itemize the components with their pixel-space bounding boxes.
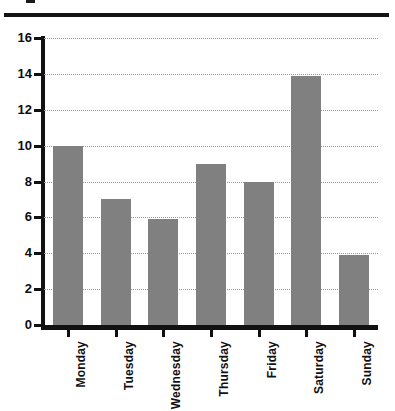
x-axis-category-label: Friday — [265, 341, 279, 378]
x-axis-category-label: Saturday — [312, 341, 326, 394]
bar[interactable] — [339, 255, 369, 325]
y-axis-tick-label: 8 — [2, 175, 32, 188]
x-axis-category-label: Monday — [74, 341, 88, 388]
y-axis-tick — [34, 252, 42, 255]
y-axis-tick — [34, 37, 42, 40]
y-axis-tick — [34, 181, 42, 184]
y-axis-tick — [34, 109, 42, 112]
y-axis-tick — [34, 324, 42, 327]
x-axis-tick — [258, 330, 261, 337]
y-axis-tick-label: 16 — [2, 31, 32, 44]
y-axis-tick — [34, 216, 42, 219]
y-axis-tick-label: 4 — [2, 246, 32, 259]
x-axis-category-label: Thursday — [217, 341, 231, 397]
y-axis-tick-label: 10 — [2, 139, 32, 152]
bar-chart-figure: 0246810121416 MondayTuesdayWednesdayThur… — [0, 0, 395, 411]
y-axis-tick-label: 0 — [2, 318, 32, 331]
x-axis-category-label: Sunday — [360, 341, 374, 386]
x-axis-tick — [353, 330, 356, 337]
y-axis-tick-label: 2 — [2, 282, 32, 295]
x-axis-tick — [305, 330, 308, 337]
y-axis-tick — [34, 73, 42, 76]
bar[interactable] — [101, 199, 131, 325]
bar[interactable] — [291, 76, 321, 325]
y-axis-tick — [34, 288, 42, 291]
y-axis-tick — [34, 145, 42, 148]
header-divider-rule — [4, 13, 389, 17]
y-axis-tick-label: 12 — [2, 103, 32, 116]
bars-container — [44, 38, 378, 325]
x-axis-category-label: Tuesday — [122, 341, 136, 390]
x-axis-tick — [67, 330, 70, 337]
bar[interactable] — [148, 219, 178, 325]
bar[interactable] — [53, 146, 83, 325]
x-axis-tick — [162, 330, 165, 337]
y-axis-tick-label: 6 — [2, 210, 32, 223]
y-axis-labels: 0246810121416 — [0, 0, 32, 411]
x-axis-tick — [210, 330, 213, 337]
x-axis-category-label: Wednesday — [169, 341, 183, 409]
bar[interactable] — [196, 164, 226, 325]
x-axis-tick — [115, 330, 118, 337]
y-axis-tick-label: 14 — [2, 67, 32, 80]
bar[interactable] — [244, 182, 274, 326]
